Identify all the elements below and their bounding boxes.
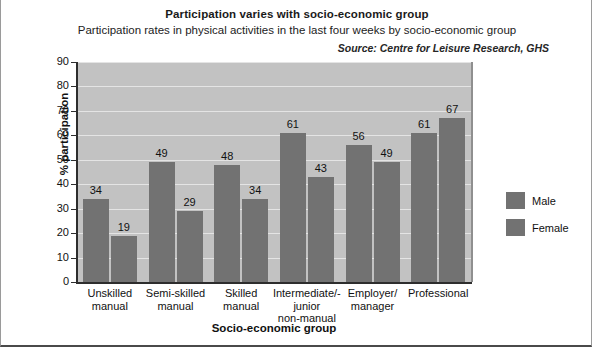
- y-axis-line: [76, 62, 78, 283]
- bar-female: [374, 162, 400, 282]
- x-axis-title: Socio-economic group: [77, 322, 471, 334]
- y-axis-tick-label: 40: [29, 177, 69, 189]
- y-axis-tick-label: 80: [29, 79, 69, 91]
- bar-male: [83, 199, 109, 282]
- bar-value-label: 34: [235, 184, 275, 196]
- bar-male: [346, 145, 372, 282]
- chart-title: Participation varies with socio-economic…: [1, 8, 592, 20]
- legend-swatch-icon: [506, 192, 525, 209]
- gridline: [77, 62, 471, 63]
- y-axis-tick-label: 60: [29, 128, 69, 140]
- bar-value-label: 49: [367, 147, 407, 159]
- y-axis-tick-label: 10: [29, 251, 69, 263]
- chart-subtitle: Participation rates in physical activiti…: [1, 24, 592, 36]
- bar-value-label: 49: [142, 147, 182, 159]
- bar-value-label: 19: [104, 221, 144, 233]
- bar-value-label: 67: [432, 103, 472, 115]
- y-axis-tick-label: 50: [29, 153, 69, 165]
- bar-value-label: 61: [273, 118, 313, 130]
- bar-female: [177, 211, 203, 282]
- y-axis-tick-label: 30: [29, 202, 69, 214]
- x-axis-line: [76, 282, 472, 284]
- bar-male: [214, 165, 240, 282]
- chart-legend: MaleFemale: [506, 192, 569, 246]
- legend-label: Female: [532, 222, 569, 234]
- y-axis-tick-label: 90: [29, 55, 69, 67]
- bar-value-label: 56: [339, 130, 379, 142]
- bar-value-label: 29: [170, 196, 210, 208]
- bar-value-label: 43: [301, 162, 341, 174]
- y-axis-tick-label: 20: [29, 226, 69, 238]
- bar-female: [439, 118, 465, 282]
- bar-male: [149, 162, 175, 282]
- bar-female: [242, 199, 268, 282]
- gridline: [77, 111, 471, 112]
- plot-area: 0102030405060708090 34194929483461435649…: [77, 62, 473, 282]
- y-axis-tick-label: 70: [29, 104, 69, 116]
- bar-female: [111, 236, 137, 282]
- chart-source-note: Source: Centre for Leisure Research, GHS: [338, 42, 549, 54]
- bar-value-label: 34: [76, 184, 116, 196]
- legend-label: Male: [532, 195, 556, 207]
- bar-male: [411, 133, 437, 282]
- chart-figure: Participation varies with socio-economic…: [0, 0, 592, 347]
- bar-value-label: 48: [207, 150, 247, 162]
- legend-swatch-icon: [506, 219, 525, 236]
- legend-item-male[interactable]: Male: [506, 192, 569, 209]
- bar-male: [280, 133, 306, 282]
- bar-female: [308, 177, 334, 282]
- y-axis-tick-label: 0: [29, 275, 69, 287]
- x-axis-tick-label: Professional: [390, 287, 486, 300]
- legend-item-female[interactable]: Female: [506, 219, 569, 236]
- bar-value-label: 61: [404, 118, 444, 130]
- gridline: [77, 86, 471, 87]
